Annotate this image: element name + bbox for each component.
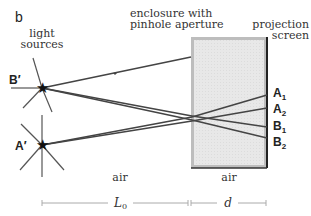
dimension-lines	[42, 200, 266, 206]
svg-text:B1: B1	[273, 119, 287, 135]
projection-screen-label-line2: screen	[272, 29, 309, 42]
enclosure-label-line2: pinhole aperture	[130, 18, 224, 31]
svg-text:B2: B2	[273, 135, 287, 151]
dim-L0-label: L0	[113, 196, 127, 211]
source-A-label: A′	[15, 139, 27, 153]
air-inside-label: air	[221, 171, 237, 184]
panel-label: b	[15, 9, 23, 25]
enclosure	[191, 37, 267, 168]
pinhole-diagram: b light sources enclosure with pinhole a…	[0, 0, 311, 216]
svg-text:A1: A1	[273, 86, 287, 102]
light-sources-label-line2: sources	[21, 38, 64, 51]
dim-d-label: d	[224, 196, 232, 210]
source-B-label: B′	[9, 73, 21, 87]
air-outside-label: air	[112, 171, 128, 184]
screen-point-labels: A1 A2 B1 B2	[273, 86, 287, 151]
star-icon-B: ★	[36, 80, 49, 96]
svg-text:A2: A2	[273, 102, 287, 118]
star-icon-A: ★	[36, 137, 49, 153]
diagram-canvas: b light sources enclosure with pinhole a…	[0, 0, 311, 216]
